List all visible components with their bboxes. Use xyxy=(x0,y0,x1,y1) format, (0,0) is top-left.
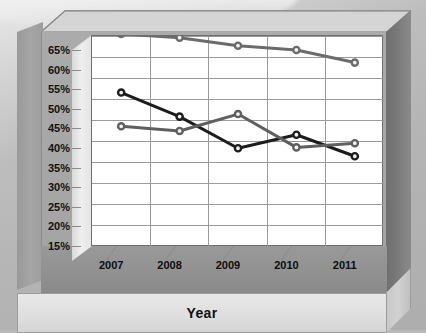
series-layer xyxy=(118,36,358,159)
plot-area xyxy=(91,35,383,246)
series-data-point xyxy=(235,111,241,117)
series-data-point xyxy=(118,89,124,95)
chart-box-right-wall xyxy=(386,10,411,293)
axis-title-panel: Year xyxy=(17,293,387,333)
series-data-point xyxy=(352,153,358,159)
series-data-point xyxy=(293,47,299,53)
series-data-point xyxy=(118,36,124,37)
x-axis-tick-label: 2011 xyxy=(315,259,375,271)
x-axis-tick-label: 2007 xyxy=(81,259,141,271)
chart-box-top-face xyxy=(15,10,411,32)
x-axis-title: Year xyxy=(187,305,218,321)
series-data-point xyxy=(177,114,183,120)
x-axis-tick-label: 2009 xyxy=(198,259,258,271)
gridlines xyxy=(92,36,384,247)
series-data-point xyxy=(177,36,183,41)
series-data-point xyxy=(235,43,241,49)
x-axis-tick-label: 2008 xyxy=(140,259,200,271)
x-axis-tick-label: 2010 xyxy=(256,259,316,271)
series-data-point xyxy=(177,128,183,134)
chart-box-left-wall xyxy=(17,22,43,290)
chart-3d-container: 65%60%55%50%45%40%35%30%25%20%15% 200720… xyxy=(15,10,411,320)
series-data-point xyxy=(352,140,358,146)
series-data-point xyxy=(235,145,241,151)
series-data-point xyxy=(293,132,299,138)
series-data-point xyxy=(293,144,299,150)
plot-canvas xyxy=(92,36,384,247)
chart-axis-riser xyxy=(72,35,92,261)
series-data-point xyxy=(352,59,358,65)
series-data-point xyxy=(118,123,124,129)
